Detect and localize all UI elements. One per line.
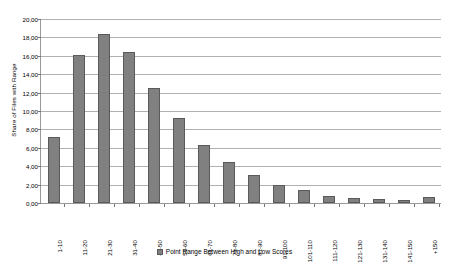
y-axis-tick-label: 12,00	[14, 89, 38, 96]
bar	[48, 137, 60, 203]
bar-slot	[191, 19, 216, 203]
bar	[273, 185, 285, 203]
x-axis-label-cell: 61-70	[190, 208, 215, 242]
bar-slot	[316, 19, 341, 203]
y-axis-tick-label: 0,00	[14, 200, 38, 207]
y-axis-tick-label: 20,00	[14, 16, 38, 23]
bar-chart: Share of Files with Range 20,0018,0016,0…	[0, 0, 449, 265]
x-axis-label-cell: 71-80	[215, 208, 240, 242]
bar-slot	[366, 19, 391, 203]
x-axis-tick	[115, 204, 140, 207]
y-axis-tick-label: 14,00	[14, 71, 38, 78]
x-axis-tick	[390, 204, 415, 207]
bar-slot	[41, 19, 66, 203]
x-axis-label-cell: +150	[415, 208, 440, 242]
bar	[423, 197, 435, 203]
x-axis-tick	[265, 204, 290, 207]
bar	[298, 190, 310, 203]
x-axis-label-cell: 131-140	[365, 208, 390, 242]
bar	[348, 198, 360, 203]
x-axis-tick	[90, 204, 115, 207]
bar-slot	[141, 19, 166, 203]
x-axis-tick	[315, 204, 340, 207]
x-axis-label-cell: 31-40	[115, 208, 140, 242]
bar-slot	[241, 19, 266, 203]
bar	[323, 196, 335, 203]
bar	[398, 200, 410, 203]
y-axis-tick-labels: 20,0018,0016,0014,0012,0010,008,006,004,…	[14, 19, 38, 203]
x-axis-label-cell: 1-10	[40, 208, 65, 242]
bar	[223, 162, 235, 203]
bar	[173, 118, 185, 203]
x-axis-label-cell: 81-90	[240, 208, 265, 242]
x-axis-tick	[40, 204, 65, 207]
x-axis-tick	[140, 204, 165, 207]
bar	[98, 34, 110, 203]
x-axis-label-cell: 101-110	[290, 208, 315, 242]
y-axis-tick-label: 8,00	[14, 126, 38, 133]
bar-slot	[91, 19, 116, 203]
bar-slot	[166, 19, 191, 203]
x-axis-tick	[415, 204, 440, 207]
bar-slot	[416, 19, 441, 203]
legend-label: Point Range Between High and Low Scores	[166, 248, 292, 256]
bar-slot	[266, 19, 291, 203]
x-axis-tick	[65, 204, 90, 207]
legend: Point Range Between High and Low Scores	[0, 248, 449, 256]
x-axis-label-cell: 91-100	[265, 208, 290, 242]
x-axis-tick	[190, 204, 215, 207]
x-axis-tick-labels: 1-1011-2021-3031-4041-5051-6061-7071-808…	[40, 208, 440, 242]
bar	[73, 55, 85, 203]
x-axis-label-cell: 141-150	[390, 208, 415, 242]
y-axis-tick-label: 2,00	[14, 181, 38, 188]
bar-slot	[116, 19, 141, 203]
x-axis-tick	[215, 204, 240, 207]
x-axis-label-cell: 121-130	[340, 208, 365, 242]
x-axis-tick	[365, 204, 390, 207]
bars-layer	[41, 19, 441, 203]
bar	[123, 52, 135, 203]
x-axis-label-cell: 41-50	[140, 208, 165, 242]
y-axis-tick-label: 18,00	[14, 34, 38, 41]
x-axis-label-cell: 21-30	[90, 208, 115, 242]
bar	[148, 88, 160, 203]
bar-slot	[391, 19, 416, 203]
bar-slot	[341, 19, 366, 203]
y-axis-tick-label: 16,00	[14, 52, 38, 59]
bar-slot	[216, 19, 241, 203]
bar	[248, 175, 260, 203]
x-axis-tick	[340, 204, 365, 207]
x-axis-label-cell: 111-120	[315, 208, 340, 242]
y-axis-tick-label: 4,00	[14, 163, 38, 170]
legend-swatch-icon	[157, 249, 163, 255]
x-axis-tick	[165, 204, 190, 207]
x-axis-tick	[290, 204, 315, 207]
bar-slot	[66, 19, 91, 203]
plot-area	[40, 19, 441, 204]
y-axis-tick-label: 6,00	[14, 144, 38, 151]
x-axis-label-cell: 11-20	[65, 208, 90, 242]
bar	[198, 145, 210, 203]
y-axis-tick-label: 10,00	[14, 108, 38, 115]
x-axis-label-cell: 51-60	[165, 208, 190, 242]
bar-slot	[291, 19, 316, 203]
x-axis-tick	[240, 204, 265, 207]
bar	[373, 199, 385, 203]
x-axis-ticks	[40, 204, 440, 207]
